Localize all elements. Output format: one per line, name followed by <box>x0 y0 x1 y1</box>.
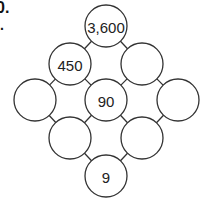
circle-shape <box>49 117 91 159</box>
circle-bottom: 9 <box>85 155 127 197</box>
connector-line <box>84 153 92 162</box>
circle-value: 90 <box>98 93 115 110</box>
circle-lower-right[interactable] <box>121 117 163 159</box>
circle-upper-left: 450 <box>49 43 91 85</box>
circle-value: 3,600 <box>87 19 125 36</box>
circle-mid-right[interactable] <box>157 79 199 121</box>
connector-line <box>120 41 128 50</box>
connector-line <box>156 115 164 124</box>
factor-diamond-diagram: 3,600450909 <box>0 0 205 202</box>
connector-line <box>84 41 92 50</box>
circle-top: 3,600 <box>85 5 127 47</box>
circle-mid-left[interactable] <box>14 79 56 121</box>
connector-line <box>49 115 57 124</box>
circle-shape <box>14 79 56 121</box>
circle-shape <box>121 117 163 159</box>
connector-line <box>120 115 128 124</box>
circle-upper-right[interactable] <box>121 43 163 85</box>
circle-shape <box>157 79 199 121</box>
circle-shape <box>121 43 163 85</box>
connector-line <box>120 153 128 162</box>
number-circles: 3,600450909 <box>14 5 199 197</box>
connector-line <box>84 115 92 124</box>
circle-center: 90 <box>85 79 127 121</box>
circle-value: 9 <box>102 169 110 186</box>
circle-value: 450 <box>57 57 82 74</box>
circle-lower-left[interactable] <box>49 117 91 159</box>
